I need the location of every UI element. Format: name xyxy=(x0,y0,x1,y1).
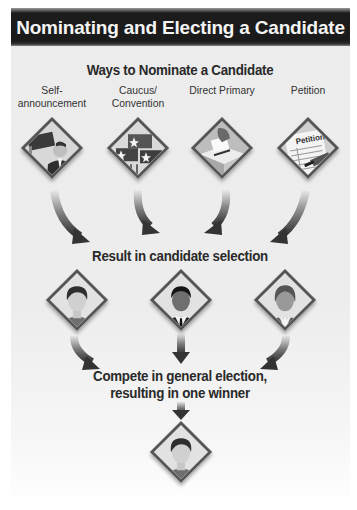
election-title-line: Compete in general election, xyxy=(79,368,281,385)
election-title: Compete in general election, resulting i… xyxy=(79,368,281,402)
election-title-line: resulting in one winner xyxy=(79,385,281,402)
selection-title: Result in candidate selection xyxy=(79,248,281,264)
